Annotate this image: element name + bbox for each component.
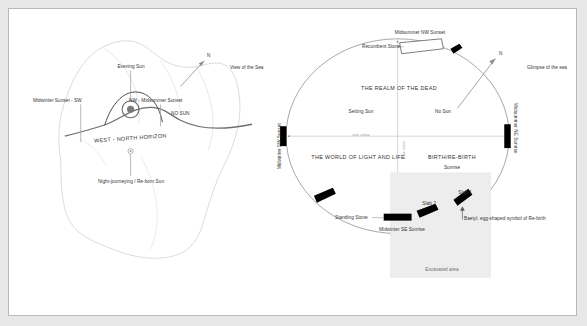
figure-page: Evening Sun Midwinter Sunset - SW NW - M… (0, 0, 587, 326)
label-glimpse-of-the-sea: Glimpse of the sea (527, 65, 567, 70)
label-midwinter-se-sunrise: Midwinter SE Sunrise (379, 227, 425, 232)
label-setting-sun: Setting Sun (349, 109, 374, 114)
label-excavated-area: Excavated area (425, 267, 458, 272)
stone-east (504, 124, 510, 148)
label-night-journeying-sun: Night-journeying / Re-born Sun (98, 179, 164, 184)
label-slab-2: Slab 2 (422, 201, 436, 206)
label-view-of-the-sea: View of the Sea (230, 65, 264, 70)
label-sunrise: Sunrise (444, 165, 460, 170)
north-arrow-head-right (489, 58, 495, 64)
standing-stone (384, 214, 412, 221)
label-midwinter-sunset-sw: Midwinter Sunset - SW (33, 98, 82, 103)
horizon-line (65, 107, 252, 136)
excavated-area-rect (391, 173, 491, 277)
north-arrow-line-right (457, 59, 495, 109)
label-north-arrow-right: N (499, 51, 502, 56)
label-major-axis: major axis (352, 132, 369, 136)
axis-tick-north (397, 41, 399, 43)
label-birth-rebirth: BIRTH/RE-BIRTH (428, 154, 476, 160)
stone-southwest (314, 188, 336, 203)
label-standing-stone: Standing Stone (335, 215, 368, 220)
left-panel-graphics (9, 9, 576, 315)
label-slab-1: Slab 1 (458, 190, 472, 195)
figure-frame: Evening Sun Midwinter Sunset - SW NW - M… (8, 8, 577, 316)
rock-outline-path (59, 41, 240, 258)
evening-sun-inner (127, 106, 134, 113)
rock-striation-3 (196, 67, 213, 150)
axis-tick-west (288, 135, 290, 137)
label-world-of-light-and-life: THE WORLD OF LIGHT AND LIFE. (311, 154, 406, 160)
label-realm-of-the-dead: THE REALM OF THE DEAD (361, 85, 437, 91)
label-recumbent-stone: Recumbent Stone (362, 44, 400, 49)
label-midwinter-sw-sunset: Midwinter SW Sunset (277, 123, 282, 169)
flanker-stone-ne (450, 44, 462, 54)
label-no-sun-left: NO SUN (171, 111, 190, 116)
label-midsummer-nw-sunset: Midsummer NW Sunset (395, 30, 445, 35)
label-evening-sun: Evening Sun (117, 64, 144, 69)
label-north-arrow-left: N (207, 53, 210, 58)
night-sun-core (130, 150, 132, 152)
rock-striation-4 (141, 156, 158, 249)
label-midsummer-ne-sunrise: Midsummer NE Sunrise (513, 103, 518, 154)
label-no-sun-right: No Sun (435, 109, 451, 114)
label-nw-midsummer-sunset: NW - Midsummer Sunset (129, 98, 182, 103)
recumbent-stone-shape (400, 39, 444, 54)
label-baetyl: Baetyl, egg-shaped symbol of Re-birth (464, 216, 546, 221)
